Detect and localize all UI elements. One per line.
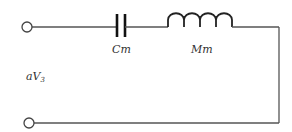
terminal-top-icon (22, 22, 32, 32)
label-source-subscript: 3 (41, 76, 46, 84)
capacitor-cm (117, 14, 125, 37)
terminal-bottom-icon (24, 118, 34, 128)
label-cm: Cm (112, 43, 131, 56)
inductor-mm (168, 13, 232, 27)
label-mm: Mm (190, 43, 213, 56)
circuit-diagram: Cm Mm aV3 (0, 0, 292, 132)
label-source: aV3 (26, 70, 46, 84)
label-source-main: aV (26, 70, 42, 83)
